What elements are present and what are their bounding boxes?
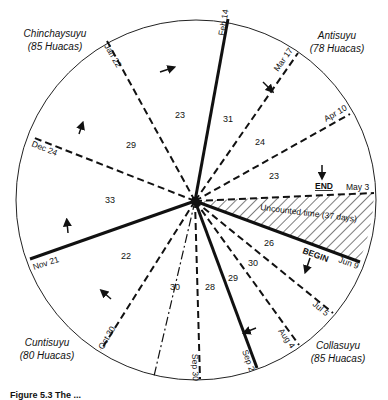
arrow-icon — [246, 328, 256, 332]
date-sep30: Sep 30 — [190, 354, 201, 382]
date-oct30: Oct 30 — [96, 324, 117, 351]
days-22: 22 — [121, 251, 131, 261]
ceque-calendar-diagram: Feb 14 Mar 17 Apr 10 May 3 Jun 9 Jul 5 A… — [0, 0, 388, 400]
days-24: 24 — [255, 137, 265, 147]
region-chinchaysuyu-count: (85 Huacas) — [28, 41, 82, 52]
days-33: 33 — [105, 195, 115, 205]
date-jan22: Jan 22 — [102, 42, 124, 69]
arrow-icon — [79, 125, 82, 134]
region-cuntisuyu: Cuntisuyu — [25, 337, 70, 348]
days-31: 31 — [223, 114, 233, 124]
region-antisuyu: Antisuyu — [317, 30, 357, 41]
days-29a: 29 — [228, 273, 238, 283]
days-30b: 30 — [170, 282, 180, 292]
region-collasuyu-count: (85 Huacas) — [311, 353, 365, 364]
region-collasuyu: Collasuyu — [316, 340, 360, 351]
days-23a: 23 — [269, 171, 279, 181]
arrow-icon — [103, 292, 111, 299]
uncounted-wedge — [195, 193, 374, 262]
arrow-icon — [306, 258, 310, 270]
days-26: 26 — [264, 238, 274, 248]
suyu-boundaries — [30, 19, 360, 368]
figure-caption: Figure 5.3 The ... — [10, 390, 81, 400]
date-dec24: Dec 24 — [30, 139, 59, 158]
date-apr10: Apr 10 — [322, 102, 349, 123]
arrow-icon — [263, 82, 271, 90]
end-marker: END — [315, 181, 333, 191]
date-sep2: Sep 2 — [240, 348, 257, 373]
days-23b: 23 — [175, 110, 185, 120]
region-antisuyu-count: (78 Huacas) — [310, 43, 364, 54]
arrow-icon — [160, 68, 172, 72]
center-point — [191, 197, 199, 205]
date-mar17: Mar 17 — [271, 46, 295, 74]
region-cuntisuyu-count: (80 Huacas) — [20, 350, 74, 361]
days-29b: 29 — [126, 140, 136, 150]
date-may3: May 3 — [346, 182, 369, 192]
days-28: 28 — [205, 282, 215, 292]
days-30a: 30 — [248, 258, 258, 268]
region-chinchaysuyu: Chinchaysuyu — [24, 28, 87, 39]
arrow-icon — [67, 222, 68, 233]
date-jul5: Jul 5 — [311, 299, 331, 318]
date-feb14: Feb 14 — [216, 8, 230, 36]
